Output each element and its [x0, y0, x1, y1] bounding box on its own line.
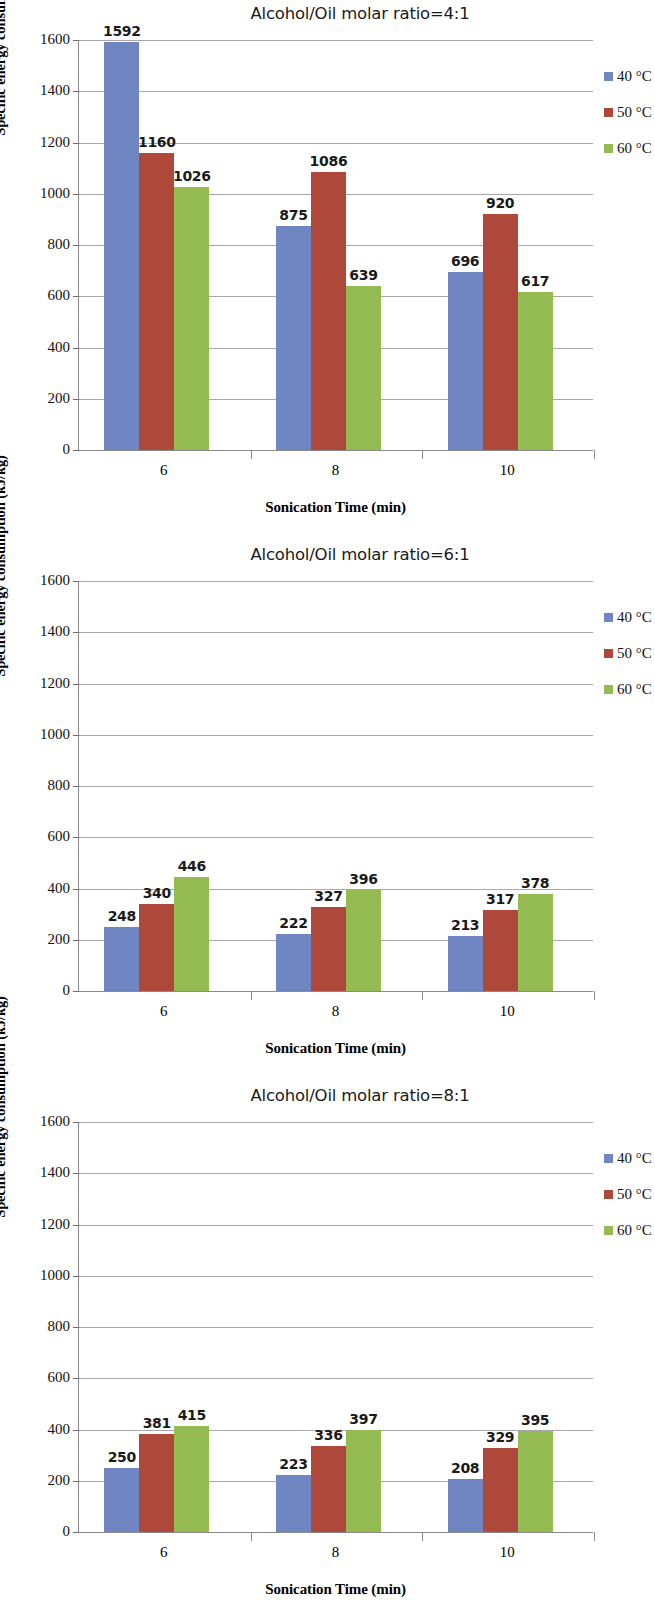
y-tick-mark [73, 91, 79, 92]
legend-swatch-icon [604, 649, 613, 658]
y-tick-label: 0 [63, 441, 71, 458]
x-group-divider [422, 1532, 423, 1541]
y-tick-label: 1000 [40, 1267, 70, 1284]
x-axis-line [79, 991, 593, 992]
bar-value-label: 415 [178, 1407, 206, 1423]
y-axis-title: Specific energy consumption (kJ/kg) [0, 416, 9, 716]
y-tick-mark [73, 684, 79, 685]
legend-item[interactable]: 40 °C [604, 1140, 652, 1176]
bar-value-label: 1160 [138, 134, 176, 150]
x-tick-label: 10 [500, 1544, 515, 1561]
legend-item[interactable]: 60 °C [604, 130, 652, 166]
y-tick-label: 800 [48, 236, 71, 253]
bar: 381 [139, 1434, 174, 1532]
x-tick-label: 6 [160, 1003, 168, 1020]
y-tick-mark [73, 245, 79, 246]
y-tick-mark [73, 1173, 79, 1174]
y-tick-label: 1200 [40, 675, 70, 692]
y-tick-mark [73, 940, 79, 941]
legend-item[interactable]: 60 °C [604, 671, 652, 707]
y-tick-label: 1600 [40, 572, 70, 589]
y-tick-mark [73, 1481, 79, 1482]
bar-value-label: 208 [451, 1460, 479, 1476]
bar: 222 [276, 934, 311, 991]
x-axis-title: Sonication Time (min) [78, 1581, 593, 1598]
y-tick-label: 600 [48, 828, 71, 845]
figure-root: Alcohol/Oil molar ratio=4:1Specific ener… [0, 0, 655, 1623]
bar: 1086 [311, 172, 346, 450]
bar-value-label: 920 [486, 195, 514, 211]
bar: 223 [276, 1475, 311, 1532]
gridline [79, 581, 593, 582]
legend-item[interactable]: 50 °C [604, 1176, 652, 1212]
legend-swatch-icon [604, 613, 613, 622]
y-tick-label: 0 [63, 1523, 71, 1540]
bar-value-label: 1086 [310, 153, 348, 169]
legend-label: 50 °C [617, 104, 652, 121]
bar: 317 [483, 910, 518, 991]
gridline [79, 1276, 593, 1277]
legend-item[interactable]: 60 °C [604, 1212, 652, 1248]
bar-value-label: 397 [349, 1411, 377, 1427]
bar: 208 [448, 1479, 483, 1532]
legend-swatch-icon [604, 1154, 613, 1163]
bar-value-label: 639 [349, 267, 377, 283]
legend-label: 50 °C [617, 645, 652, 662]
bar-value-label: 222 [279, 915, 307, 931]
bar: 329 [483, 1448, 518, 1532]
gridline [79, 1225, 593, 1226]
y-axis-title: Specific energy consumption (kJ/kg) [0, 957, 9, 1257]
legend-item[interactable]: 40 °C [604, 599, 652, 635]
x-group-divider [251, 1532, 252, 1541]
y-tick-mark [73, 632, 79, 633]
x-group-divider [251, 991, 252, 1000]
y-tick-mark [73, 143, 79, 144]
x-axis-end-tick [594, 450, 595, 459]
legend-item[interactable]: 40 °C [604, 58, 652, 94]
plot-area: 1600140012001000800600400200024834044622… [78, 581, 593, 991]
bar: 1026 [174, 187, 209, 450]
x-tick-label: 8 [332, 1003, 340, 1020]
bar: 327 [311, 907, 346, 991]
chart-panel: Alcohol/Oil molar ratio=4:1Specific ener… [0, 0, 655, 541]
x-axis-end-tick [594, 1532, 595, 1541]
y-tick-label: 1200 [40, 1216, 70, 1233]
x-group-divider [422, 991, 423, 1000]
legend-item[interactable]: 50 °C [604, 635, 652, 671]
legend-swatch-icon [604, 1226, 613, 1235]
legend-label: 40 °C [617, 609, 652, 626]
legend: 40 °C50 °C60 °C [604, 1140, 652, 1248]
chart-panel: Alcohol/Oil molar ratio=8:1Specific ener… [0, 1082, 655, 1623]
bar: 920 [483, 214, 518, 450]
x-axis-line [79, 450, 593, 451]
y-tick-mark [73, 194, 79, 195]
gridline [79, 735, 593, 736]
x-axis-title: Sonication Time (min) [78, 499, 593, 516]
legend-label: 60 °C [617, 140, 652, 157]
bar: 415 [174, 1426, 209, 1532]
bar-value-label: 327 [314, 888, 342, 904]
bar: 446 [174, 877, 209, 991]
gridline [79, 684, 593, 685]
legend-label: 40 °C [617, 68, 652, 85]
bar-value-label: 1026 [173, 168, 211, 184]
bar-value-label: 317 [486, 891, 514, 907]
y-tick-mark [73, 786, 79, 787]
y-tick-mark [73, 991, 79, 992]
bar-value-label: 875 [279, 207, 307, 223]
y-tick-label: 400 [48, 880, 71, 897]
legend-item[interactable]: 50 °C [604, 94, 652, 130]
y-tick-mark [73, 348, 79, 349]
gridline [79, 1327, 593, 1328]
bar: 696 [448, 272, 483, 450]
legend-label: 40 °C [617, 1150, 652, 1167]
y-tick-label: 200 [48, 931, 71, 948]
bar: 250 [104, 1468, 139, 1532]
y-tick-label: 1600 [40, 1113, 70, 1130]
chart-title: Alcohol/Oil molar ratio=4:1 [150, 4, 570, 23]
bar: 378 [518, 894, 553, 991]
legend-label: 50 °C [617, 1186, 652, 1203]
bar-value-label: 250 [108, 1449, 136, 1465]
bar: 1160 [139, 153, 174, 450]
bar: 336 [311, 1446, 346, 1532]
